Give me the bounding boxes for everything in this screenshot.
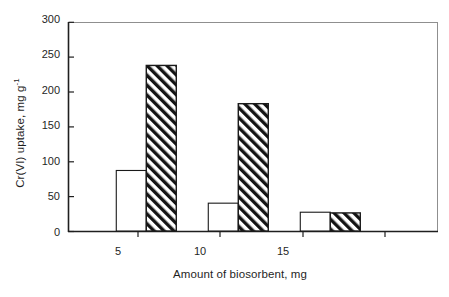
bar	[300, 212, 330, 231]
x-axis-ticks	[138, 232, 385, 238]
y-axis-ticks	[69, 22, 75, 231]
bar	[238, 104, 268, 231]
bars-layer	[116, 65, 360, 231]
chart-figure: Cr(VI) uptake, mg g-1 Amount of biosorbe…	[0, 0, 449, 297]
bar	[116, 170, 146, 231]
bar	[330, 213, 360, 231]
plot-area	[0, 0, 449, 297]
bar	[146, 65, 176, 231]
bar	[208, 203, 238, 231]
